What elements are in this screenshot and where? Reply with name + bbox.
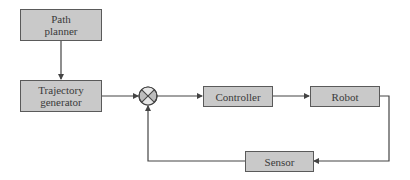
path-planner-label-line1: Path <box>45 13 78 25</box>
sensor-block: Sensor <box>245 151 314 172</box>
path-planner-block: Path planner <box>20 9 102 41</box>
path-planner-label-line2: planner <box>45 25 78 37</box>
control-loop-diagram: Path planner Trajectory generator Contro… <box>0 0 410 180</box>
controller-label: Controller <box>215 91 260 103</box>
arrow-sensor-to-junction <box>148 106 245 161</box>
trajectory-generator-label-line1: Trajectory <box>38 84 83 96</box>
summing-junction-icon <box>139 87 157 105</box>
sensor-label: Sensor <box>265 156 295 168</box>
robot-block: Robot <box>310 86 380 107</box>
trajectory-generator-block: Trajectory generator <box>20 80 102 112</box>
controller-block: Controller <box>203 86 273 107</box>
robot-label: Robot <box>332 91 359 103</box>
trajectory-generator-label-line2: generator <box>38 96 83 108</box>
